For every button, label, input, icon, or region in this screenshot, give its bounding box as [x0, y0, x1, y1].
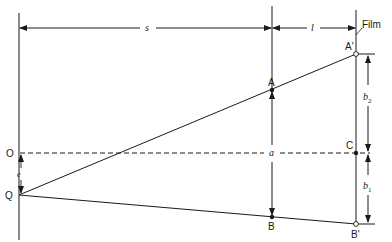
ray-upper [19, 54, 356, 195]
label-a: a [269, 147, 274, 158]
label-A: A [268, 77, 275, 88]
label-film: Film [362, 19, 381, 30]
label-b1: b1 [363, 180, 372, 194]
point-A [270, 88, 274, 92]
label-l: l [311, 22, 314, 33]
point-B-prime [354, 222, 359, 227]
point-B [270, 215, 274, 219]
label-A-prime: A' [345, 41, 354, 52]
label-Q: Q [5, 190, 13, 201]
point-A-prime [354, 52, 359, 57]
label-b2: b2 [363, 91, 372, 105]
label-s: s [145, 22, 149, 33]
label-B-prime: B' [351, 229, 360, 240]
point-C [354, 151, 358, 155]
label-O: O [6, 148, 14, 159]
label-B: B [268, 221, 275, 232]
label-e: e [17, 170, 21, 179]
projection-diagram: s l Film a e b2 b1 O Q A B C A' B' [0, 0, 392, 242]
ray-lower [19, 195, 356, 224]
label-C: C [346, 140, 353, 151]
